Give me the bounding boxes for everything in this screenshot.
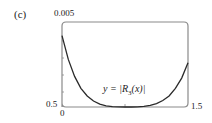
- tick-marks: [62, 41, 125, 107]
- curve-label: y = |R3(x)|: [103, 83, 145, 97]
- plot-area: [0, 0, 212, 123]
- curve-label-prefix: y = |R: [103, 83, 128, 94]
- curve-label-suffix: (x)|: [132, 83, 146, 94]
